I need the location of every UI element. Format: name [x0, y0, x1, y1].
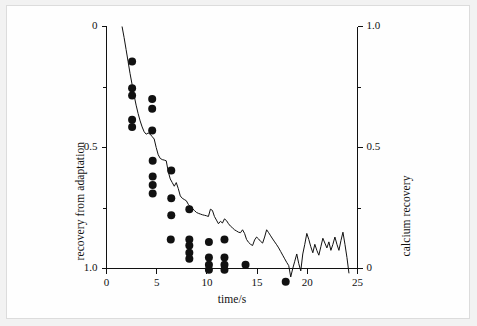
axis-ticks	[102, 27, 363, 274]
x-axis-title: time/s	[172, 293, 292, 305]
y-left-tick-label-0.5: 0.5	[58, 140, 98, 152]
y-right-tick-label-0.5: 0.5	[367, 140, 407, 152]
y-right-tick-label-0: 0	[367, 261, 407, 273]
axis-frame	[107, 27, 358, 269]
y-left-tick-label-0: 0	[58, 19, 98, 31]
x-tick-label-25: 25	[338, 276, 378, 288]
x-tick-label-5: 5	[137, 276, 177, 288]
calcium-recovery-line	[122, 27, 349, 277]
x-tick-label-15: 15	[237, 276, 277, 288]
figure-container: recovery from adaptation calcium recover…	[0, 0, 477, 326]
y-axis-left-title: recovery from adaptation	[74, 142, 86, 261]
recovery-scatter-points	[128, 58, 290, 286]
x-tick-label-20: 20	[287, 276, 327, 288]
y-axis-right-title: calcium recovery	[400, 175, 412, 256]
x-tick-label-0: 0	[87, 276, 127, 288]
y-left-tick-label-1.0: 1.0	[58, 261, 98, 273]
x-tick-label-10: 10	[187, 276, 227, 288]
y-right-tick-label-1.0: 1.0	[367, 19, 407, 31]
